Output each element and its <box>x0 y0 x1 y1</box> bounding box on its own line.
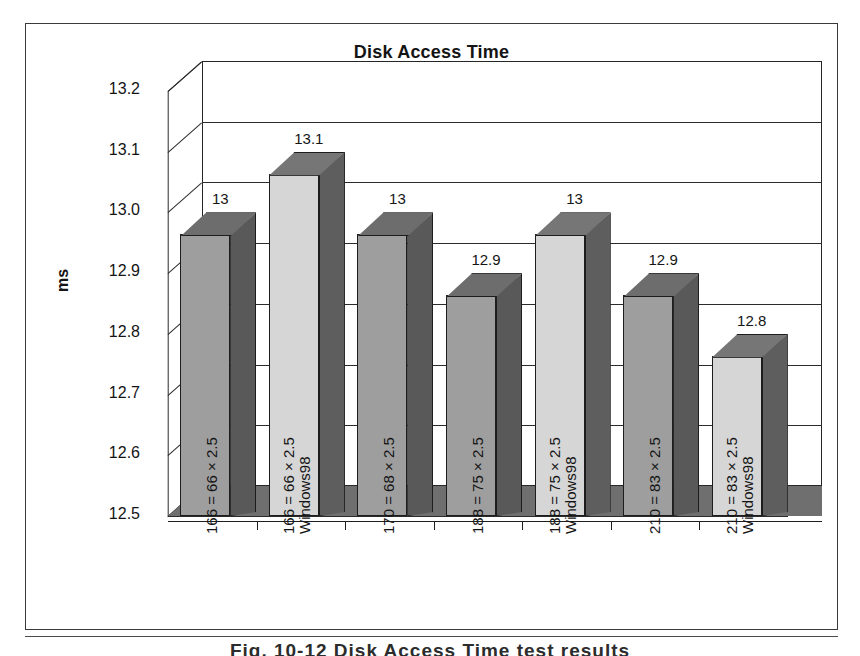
x-axis-tick <box>345 521 346 530</box>
x-axis-tick <box>257 521 258 530</box>
x-axis-category-label: 166 = 66 × 2.5Windows98 <box>281 414 313 534</box>
category-label-line1: 166 = 66 × 2.5 <box>203 437 220 534</box>
category-label-line1: 210 = 83 × 2.5 <box>723 437 740 534</box>
category-label-line1: 210 = 83 × 2.5 <box>646 437 663 534</box>
y-tick-label: 13.1 <box>109 141 140 159</box>
figure-frame: Disk Access Time ms 13.213.113.012.912.8… <box>25 23 838 630</box>
bar-value-label: 13 <box>188 190 252 207</box>
bar-side-face <box>407 212 433 516</box>
y-tick-label: 13.0 <box>109 201 140 219</box>
y-tick-label: 13.2 <box>109 80 140 98</box>
caption-rule <box>25 636 838 637</box>
category-label-line2: Windows98 <box>297 414 313 534</box>
x-axis-category-label: 188 = 75 × 2.5Windows98 <box>547 414 579 534</box>
bar-value-label: 13 <box>543 190 607 207</box>
x-axis-category-label: 170 = 68 × 2.5 <box>381 414 397 534</box>
category-label-line2: Windows98 <box>563 414 579 534</box>
bar-side-face <box>673 273 699 516</box>
category-label-line1: 170 = 68 × 2.5 <box>380 437 397 534</box>
bar-value-label: 12.9 <box>454 251 518 268</box>
y-axis-ticks: 13.213.113.012.912.812.712.612.5 <box>44 54 140 504</box>
category-label-line2: Windows98 <box>740 414 756 534</box>
category-label-line1: 188 = 75 × 2.5 <box>546 437 563 534</box>
x-axis-category-label: 210 = 83 × 2.5Windows98 <box>724 414 756 534</box>
category-label-line1: 188 = 75 × 2.5 <box>469 437 486 534</box>
bar-value-label: 12.8 <box>720 312 784 329</box>
bar-side-face <box>762 334 788 516</box>
x-axis-tick <box>699 521 700 530</box>
figure-caption: Fig. 10-12 Disk Access Time test results <box>0 640 860 656</box>
figure-page: { "figure": { "title": "Disk Access Time… <box>0 0 860 656</box>
y-tick-label: 12.6 <box>109 444 140 462</box>
bar-value-label: 13 <box>365 190 429 207</box>
y-tick-label: 12.9 <box>109 262 140 280</box>
x-axis-tick <box>611 521 612 530</box>
x-axis-tick <box>522 521 523 530</box>
x-axis-category-label: 210 = 83 × 2.5 <box>647 414 663 534</box>
y-tick-label: 12.5 <box>109 505 140 523</box>
bar-side-face <box>585 212 611 516</box>
x-axis-tick <box>434 521 435 530</box>
bar-value-label: 12.9 <box>631 251 695 268</box>
x-axis-category-label: 188 = 75 × 2.5 <box>470 414 486 534</box>
bar-side-face <box>319 152 345 516</box>
category-label-line1: 166 = 66 × 2.5 <box>280 437 297 534</box>
y-tick-label: 12.7 <box>109 384 140 402</box>
bar-value-label: 13.1 <box>277 130 341 147</box>
bar-side-face <box>230 212 256 516</box>
x-axis-category-label: 166 = 66 × 2.5 <box>204 414 220 534</box>
y-tick-label: 12.8 <box>109 323 140 341</box>
bar-side-face <box>496 273 522 516</box>
